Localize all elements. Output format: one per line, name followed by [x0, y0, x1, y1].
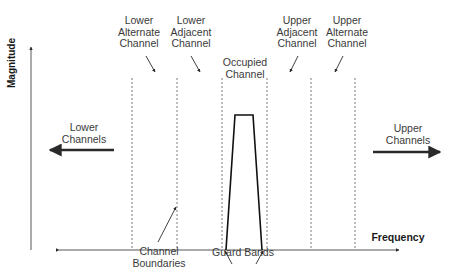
label-upper-adjacent: Upper Adjacent Channel	[272, 15, 322, 50]
label-channel-boundaries: Channel Boundaries	[128, 246, 190, 269]
x-axis-label: Frequency	[368, 232, 428, 244]
pointer-arrow-upper-adjacent	[290, 56, 298, 72]
pointer-arrow-lower-adjacent	[191, 56, 200, 72]
label-guard-bands: Guard Bands	[208, 247, 278, 259]
label-upper-channels: Upper Channels	[378, 123, 438, 146]
occupied-signal	[226, 115, 262, 250]
boundaries-pointer	[158, 207, 176, 242]
pointer-arrow-upper-alternate	[335, 56, 343, 72]
y-axis-label: Magnitude	[6, 38, 17, 88]
label-lower-alternate: Lower Alternate Channel	[114, 15, 164, 50]
label-lower-adjacent: Lower Adjacent Channel	[166, 15, 216, 50]
channel-boundaries	[132, 78, 355, 250]
label-occupied: Occupied Channel	[218, 57, 272, 80]
pointer-arrow-lower-alternate	[146, 56, 155, 72]
label-upper-alternate: Upper Alternate Channel	[322, 15, 372, 50]
label-lower-channels: Lower Channels	[56, 122, 112, 145]
